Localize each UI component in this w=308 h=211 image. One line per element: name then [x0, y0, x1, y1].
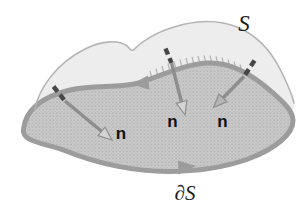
- surface-label: S: [238, 11, 250, 36]
- normal-label-right: n: [217, 112, 227, 131]
- boundary-label: ∂S: [175, 181, 196, 205]
- stokes-surface-diagram: S ∂S n n n: [0, 0, 308, 211]
- normal-label-middle: n: [167, 112, 177, 131]
- normal-label-left: n: [116, 124, 126, 143]
- diagram-canvas: S ∂S n n n: [0, 0, 308, 211]
